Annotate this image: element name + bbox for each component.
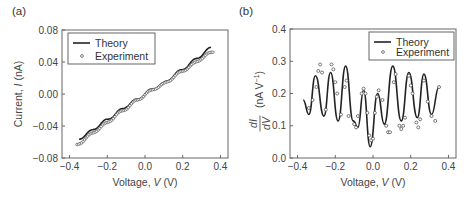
chart-panel-a: (a)−0.4−0.20.00.20.4−0.08−0.040.000.040.… <box>12 5 228 188</box>
y-tick-label: −0.04 <box>33 121 59 132</box>
x-tick-label: −0.2 <box>325 161 345 172</box>
y-tick-label: 0.0 <box>272 153 286 164</box>
panel-label: (a) <box>12 5 26 17</box>
legend-marker-icon <box>81 55 84 58</box>
legend-marker-icon <box>382 51 385 54</box>
x-tick-label: 0.4 <box>214 161 228 172</box>
y-axis-label: Current, I (nA) <box>12 61 24 128</box>
y-tick-label: 0.3 <box>272 56 286 67</box>
legend: TheoryExperiment <box>369 32 454 60</box>
y-tick-label: 0.04 <box>39 57 59 68</box>
svg-text:dI: dI <box>247 119 259 128</box>
y-tick-label: −0.08 <box>33 153 59 164</box>
legend-label-experiment: Experiment <box>396 46 449 58</box>
x-axis-label: Voltage, V (V) <box>113 176 178 188</box>
legend-label-experiment: Experiment <box>95 50 148 62</box>
x-tick-label: 0.4 <box>442 161 456 172</box>
x-tick-label: 0.0 <box>366 161 380 172</box>
chart-figure: (a)−0.4−0.20.00.20.4−0.08−0.040.000.040.… <box>0 0 467 200</box>
series-theory-line <box>303 66 439 147</box>
x-tick-label: −0.4 <box>60 161 80 172</box>
x-tick-label: −0.2 <box>97 161 117 172</box>
y-tick-label: 0.4 <box>272 24 286 35</box>
legend-label-theory: Theory <box>95 37 128 49</box>
x-tick-label: 0.2 <box>176 161 190 172</box>
y-axis-label: dIdV(nA V−1) <box>247 71 272 132</box>
y-tick-label: 0.08 <box>39 25 59 36</box>
x-axis-label: Voltage, V (V) <box>341 176 406 188</box>
y-tick-label: 0.00 <box>39 89 59 100</box>
series-experiment-markers <box>76 51 214 146</box>
y-tick-label: 0.2 <box>272 88 286 99</box>
svg-text:dV: dV <box>260 116 272 130</box>
chart-panel-b: (b)−0.4−0.20.00.20.40.00.10.20.30.4Volta… <box>239 5 456 188</box>
x-tick-label: −0.4 <box>288 161 308 172</box>
x-tick-label: 0.2 <box>404 161 418 172</box>
x-tick-label: 0.0 <box>138 161 152 172</box>
svg-text:(nA V−1): (nA V−1) <box>253 71 265 108</box>
legend: TheoryExperiment <box>68 33 155 64</box>
y-tick-label: 0.1 <box>272 120 286 131</box>
panel-label: (b) <box>239 5 253 17</box>
